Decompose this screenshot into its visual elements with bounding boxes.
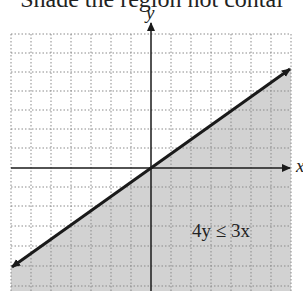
coordinate-plane bbox=[0, 0, 303, 291]
inequality-label: 4y ≤ 3x bbox=[192, 220, 250, 242]
x-axis-label: x bbox=[296, 155, 303, 177]
y-axis-label: y bbox=[146, 2, 154, 24]
